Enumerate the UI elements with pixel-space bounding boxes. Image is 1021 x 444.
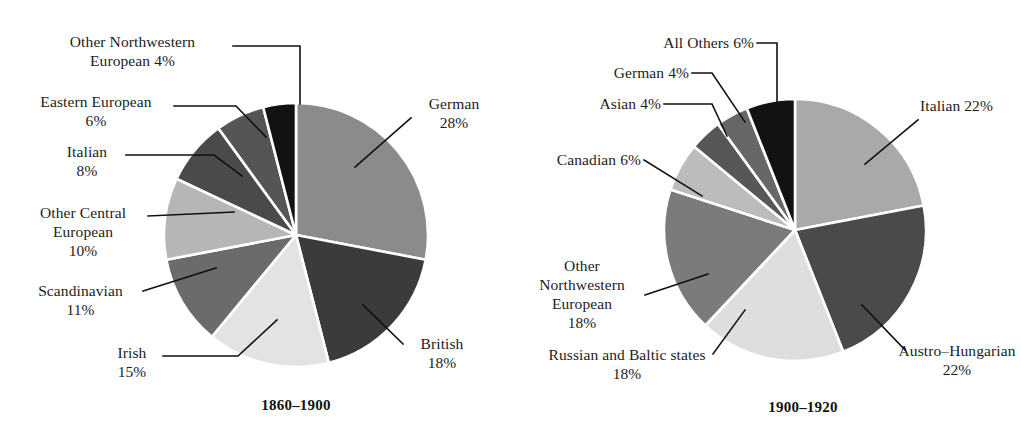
label-other-northwestern-european-right: Other Northwestern European 18% — [523, 256, 641, 332]
label-all-others-right: All Others 6% — [590, 33, 754, 52]
leader-line-other-northwestern-european-left — [233, 46, 300, 104]
label-russian-and-baltic-states-right: Russian and Baltic states 18% — [535, 345, 719, 383]
label-asian-right: Asian 4% — [545, 94, 661, 113]
label-italian-left: Italian 8% — [48, 142, 126, 180]
label-other-northwestern-european-left: Other Northwestern European 4% — [30, 32, 235, 70]
label-scandinavian-left: Scandinavian 11% — [18, 281, 143, 319]
label-irish-left: Irish 15% — [101, 343, 163, 381]
label-austro-hungarian-right: Austro–Hungarian 22% — [892, 341, 1021, 379]
label-german-right: German 4% — [560, 63, 689, 82]
label-british-left: British 18% — [404, 334, 480, 372]
label-other-central-european-left: Other Central European 10% — [18, 203, 148, 260]
two-pie-chart-figure: German 28%British 18%Irish 15%Scandinavi… — [0, 0, 1021, 444]
left-pie-slices: German 28%British 18%Irish 15%Scandinavi… — [164, 103, 428, 367]
label-german-left: German 28% — [412, 94, 496, 132]
label-italian-right: Italian 22% — [920, 96, 1020, 115]
pie-slice-german[interactable]: German 28% — [296, 103, 428, 260]
caption-left-chart: 1860–1900 — [216, 397, 376, 414]
caption-right-chart: 1900–1920 — [723, 399, 883, 416]
label-eastern-european-left: Eastern European 6% — [18, 92, 174, 130]
right-pie-slices: Italian 22%Austro–Hungarian 22%Russian a… — [664, 99, 926, 361]
label-canadian-right: Canadian 6% — [515, 150, 641, 169]
leader-line-all-others-right — [757, 43, 777, 104]
